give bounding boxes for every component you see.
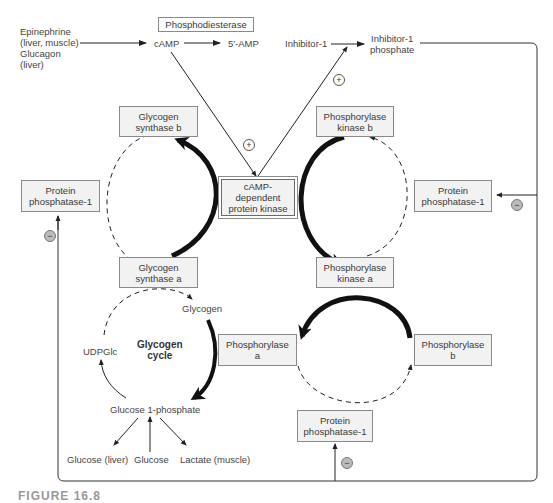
pp1-bottom-line1: Protein [298, 415, 372, 426]
pka-line2: dependent [222, 192, 294, 203]
pp1-right-line2: phosphatase-1 [415, 196, 491, 207]
phosphorylase-kinase-b-box: Phosphorylase kinase b [316, 106, 394, 137]
phosphorylase-a-box: Phosphorylase a [218, 334, 297, 366]
thick-arrow-glycogen [194, 320, 215, 398]
dashed-arc-gs [107, 135, 148, 266]
phosphorylase-b-line1: Phosphorylase [415, 339, 491, 350]
phosphodiesterase-box: Phosphodiesterase [158, 17, 254, 32]
glycogen-synthase-b-line1: Glycogen [120, 111, 197, 122]
pka-line3: protein kinase [222, 203, 294, 214]
pp1-right-line1: Protein [415, 185, 491, 196]
phosphorylase-kinase-a-line1: Phosphorylase [317, 262, 393, 273]
pp1-left-line2: phosphatase-1 [22, 196, 99, 207]
protein-phosphatase-1-right-box: Protein phosphatase-1 [414, 180, 492, 212]
protein-phosphatase-1-left-box: Protein phosphatase-1 [21, 180, 100, 212]
phosphorylase-kinase-a-line2: kinase a [317, 273, 393, 284]
phosphorylase-kinase-b-line2: kinase b [317, 122, 393, 133]
thick-arrow-gs-b [172, 140, 216, 256]
phosphodiesterase-label: Phosphodiesterase [159, 19, 253, 30]
phosphorylase-kinase-a-box: Phosphorylase kinase a [316, 257, 394, 288]
plus-sign-camp-pka: + [243, 139, 255, 151]
pka-line1: cAMP- [222, 181, 294, 192]
arrow-g1p-udpglc [101, 360, 126, 398]
glucose-liver-label: Glucose (liver) [67, 454, 128, 465]
hormone-glucagon-site: (liver) [20, 59, 79, 70]
minus-sign-right: − [511, 199, 523, 211]
phosphorylase-a-line2: a [219, 350, 296, 361]
glucose-label: Glucose [134, 454, 169, 465]
thick-arrow-phk [301, 137, 344, 264]
camp-dependent-protein-kinase-box: cAMP- dependent protein kinase [221, 179, 295, 216]
lactate-label: Lactate (muscle) [180, 454, 250, 465]
glycogen-synthase-a-line2: synthase a [120, 273, 197, 284]
protein-phosphatase-1-bottom-box: Protein phosphatase-1 [297, 410, 373, 442]
dashed-arc-phk [367, 137, 407, 256]
hormone-glucagon: Glucagon [20, 48, 79, 59]
amp-label: 5′-AMP [228, 38, 259, 49]
glucose-1-phosphate-label: Glucose 1-phosphate [110, 404, 200, 415]
dashed-arc-glycogen [104, 289, 192, 335]
glycogen-synthase-a-box: Glycogen synthase a [119, 257, 198, 288]
glycogen-cycle-label: Glycogen cycle [137, 339, 183, 361]
camp-label: cAMP [154, 38, 179, 49]
inhibitor1-phosphate-line1: Inhibitor-1 [370, 33, 414, 44]
inhibitor1-phosphate-label: Inhibitor-1 phosphate [370, 33, 414, 55]
hormones-label: Epinephrine (liver, muscle) Glucagon (li… [20, 26, 79, 70]
udpglc-label: UDPGlc [83, 346, 117, 357]
thick-arrow-phos [302, 298, 410, 338]
dashed-arc-phos [298, 365, 411, 403]
glycogen-cycle-line1: Glycogen [137, 339, 183, 350]
minus-sign-left: − [44, 230, 56, 242]
phosphorylase-kinase-b-line1: Phosphorylase [317, 111, 393, 122]
arrow-g1p-lactate [160, 418, 186, 445]
phosphorylase-b-line2: b [415, 350, 491, 361]
glycogen-synthase-a-line1: Glycogen [120, 262, 197, 273]
pp1-bottom-line2: phosphatase-1 [298, 426, 372, 437]
glycogen-label: Glycogen [182, 303, 222, 314]
phosphorylase-b-box: Phosphorylase b [414, 334, 492, 366]
hormone-epinephrine-site: (liver, muscle) [20, 37, 79, 48]
plus-sign-pka-inhibitor: + [333, 74, 345, 86]
figure-caption: FIGURE 16.8 [18, 489, 101, 503]
hormone-epinephrine: Epinephrine [20, 26, 79, 37]
minus-sign-bottom: − [341, 457, 353, 469]
inhibitor1-phosphate-line2: phosphate [370, 44, 414, 55]
glycogen-synthase-b-box: Glycogen synthase b [119, 106, 198, 137]
inhibitor1-label: Inhibitor-1 [285, 38, 327, 49]
arrow-g1p-glucose-liver [114, 418, 138, 445]
glycogen-cycle-line2: cycle [137, 350, 183, 361]
pp1-left-line1: Protein [22, 185, 99, 196]
glycogen-synthase-b-line2: synthase b [120, 122, 197, 133]
phosphorylase-a-line1: Phosphorylase [219, 339, 296, 350]
